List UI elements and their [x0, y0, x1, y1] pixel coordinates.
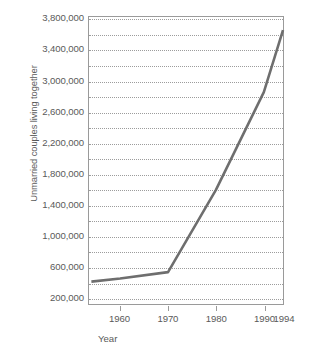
- x-axis-title: Year: [98, 333, 117, 344]
- plot-area: [88, 16, 284, 305]
- x-axis-tick-mark: [168, 306, 169, 311]
- x-axis-tick-mark: [216, 306, 217, 311]
- chart-figure: Unmarried couples living together 3,800,…: [0, 0, 309, 351]
- y-axis-tick-label: 600,000: [0, 261, 84, 272]
- y-axis-tick-label: 2,600,000: [0, 106, 84, 117]
- x-axis-tick-label: 1994: [264, 313, 304, 324]
- y-axis-tick-label: 3,400,000: [0, 43, 84, 54]
- x-axis-tick-label: 1960: [100, 313, 140, 324]
- x-axis-tick-mark: [265, 306, 266, 311]
- y-axis-tick-label: 200,000: [0, 292, 84, 303]
- x-axis-tick-mark: [120, 306, 121, 311]
- y-axis-tick-labels: 3,800,0003,400,0003,000,0002,600,0002,20…: [0, 0, 84, 351]
- y-axis-tick-label: 1,400,000: [0, 199, 84, 210]
- data-polyline: [91, 30, 283, 282]
- y-axis-tick-label: 3,000,000: [0, 75, 84, 86]
- data-line-series: [89, 17, 283, 304]
- y-axis-tick-label: 2,200,000: [0, 137, 84, 148]
- x-axis-tick-label: 1970: [148, 313, 188, 324]
- y-axis-tick-label: 1,800,000: [0, 168, 84, 179]
- y-axis-tick-label: 1,000,000: [0, 230, 84, 241]
- y-axis-tick-label: 3,800,000: [0, 12, 84, 23]
- x-axis-tick-label: 1980: [196, 313, 236, 324]
